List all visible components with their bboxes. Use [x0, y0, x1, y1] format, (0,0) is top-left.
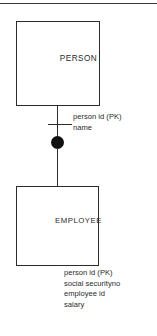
entity-box-person[interactable] [16, 21, 100, 106]
page-rule [0, 3, 157, 4]
er-diagram-canvas: PERSON person id (PK) name EMPLOYEE pers… [0, 0, 157, 336]
connector-line-upper [57, 106, 58, 137]
attribute-item: social securityno [64, 279, 120, 290]
attribute-item: name [73, 123, 122, 134]
connector-crossbar-icon [48, 124, 72, 125]
attribute-item: employee id [64, 289, 120, 300]
attribute-item: person id (PK) [64, 268, 120, 279]
attribute-item: person id (PK) [73, 112, 122, 123]
attribute-item: salary [64, 300, 120, 311]
attribute-list-employee: person id (PK) social securityno employe… [64, 268, 120, 310]
entity-box-employee[interactable] [16, 186, 99, 266]
entity-label-person: PERSON [0, 54, 157, 63]
entity-label-employee: EMPLOYEE [0, 216, 157, 225]
connector-line-lower [57, 148, 58, 186]
attribute-list-person: person id (PK) name [73, 112, 122, 133]
